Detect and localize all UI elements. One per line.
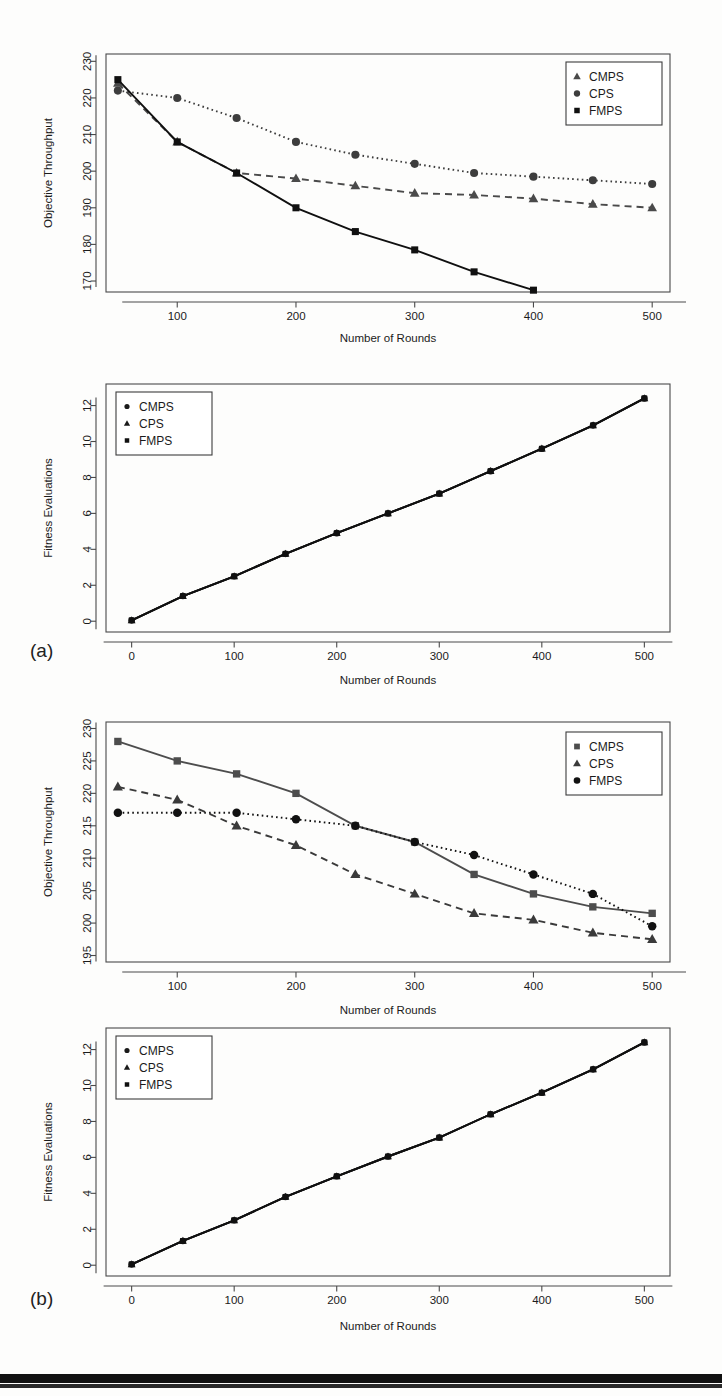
series-marker-fmps xyxy=(539,446,545,452)
series-marker-fmps xyxy=(283,551,289,557)
y-tick-label: 6 xyxy=(81,510,93,516)
figure-page: 100200300400500170180190200210220230Numb… xyxy=(0,0,722,1396)
legend-label-cps: CPS xyxy=(139,1061,164,1075)
series-marker-cps xyxy=(233,114,241,122)
y-axis-title: Fitness Evaluations xyxy=(42,458,54,558)
series-marker-cmps xyxy=(649,910,656,917)
series-marker-fmps xyxy=(283,1194,289,1200)
legend-label-cps: CPS xyxy=(139,417,164,431)
series-marker-fmps xyxy=(129,617,135,623)
x-tick-label: 200 xyxy=(286,310,305,322)
chart-b-bottom-svg: 0100200300400500024681012Number of Round… xyxy=(36,1012,686,1334)
x-tick-label: 300 xyxy=(430,1294,449,1306)
series-marker-fmps xyxy=(180,593,186,599)
y-tick-label: 200 xyxy=(81,913,93,932)
series-marker-fmps xyxy=(352,228,359,235)
series-marker-fmps xyxy=(436,1135,442,1141)
x-tick-label: 500 xyxy=(643,980,662,992)
y-tick-label: 220 xyxy=(81,88,93,107)
x-tick-label: 300 xyxy=(405,980,424,992)
series-marker-fmps xyxy=(471,268,478,275)
x-tick-label: 400 xyxy=(524,980,543,992)
series-line-cps xyxy=(118,787,652,939)
series-marker-fmps xyxy=(590,1066,596,1072)
x-tick-label: 200 xyxy=(327,1294,346,1306)
series-marker-cps xyxy=(113,782,123,791)
series-marker-cmps xyxy=(174,757,181,764)
y-tick-label: 225 xyxy=(81,751,93,770)
y-tick-label: 220 xyxy=(81,784,93,803)
chart-b-top-svg: 100200300400500195200205210215220225230N… xyxy=(36,706,686,1018)
chart-legend: CMPSCPSFMPS xyxy=(566,62,662,125)
series-marker-cps xyxy=(648,180,656,188)
y-tick-label: 210 xyxy=(81,125,93,144)
series-marker-cmps xyxy=(589,903,596,910)
y-tick-label: 205 xyxy=(81,881,93,900)
series-marker-fmps xyxy=(488,468,494,474)
y-tick-label: 0 xyxy=(81,1262,93,1268)
legend-label-fmps: FMPS xyxy=(139,1078,172,1092)
x-tick-label: 200 xyxy=(286,980,305,992)
series-marker-fmps xyxy=(589,890,597,898)
series-marker-fmps xyxy=(231,1217,237,1223)
series-marker-fmps xyxy=(180,1238,186,1244)
x-tick-label: 0 xyxy=(128,1294,134,1306)
series-marker-fmps xyxy=(351,822,359,830)
x-tick-label: 200 xyxy=(327,650,346,662)
series-marker-cmps xyxy=(114,738,121,745)
legend-label-cps: CPS xyxy=(589,87,614,101)
y-tick-label: 2 xyxy=(81,582,93,588)
series-marker-fmps xyxy=(410,838,418,846)
series-marker-fmps xyxy=(590,422,596,428)
series-marker-fmps xyxy=(114,76,121,83)
series-marker-fmps xyxy=(539,1090,545,1096)
x-tick-label: 100 xyxy=(225,1294,244,1306)
series-marker-fmps xyxy=(292,204,299,211)
series-marker-fmps xyxy=(436,491,442,497)
legend-label-fmps: FMPS xyxy=(589,774,622,788)
x-tick-label: 500 xyxy=(635,1294,654,1306)
y-tick-label: 8 xyxy=(81,474,93,480)
legend-label-fmps: FMPS xyxy=(589,104,622,118)
chart-panel-a-bottom: 0100200300400500024681012Number of Round… xyxy=(36,368,686,688)
x-tick-label: 400 xyxy=(532,1294,551,1306)
x-tick-label: 300 xyxy=(430,650,449,662)
chart-a-top-svg: 100200300400500170180190200210220230Numb… xyxy=(36,36,686,346)
y-tick-label: 170 xyxy=(81,271,93,290)
x-tick-label: 100 xyxy=(168,310,187,322)
legend-label-cmps: CMPS xyxy=(139,400,174,414)
series-marker-fmps xyxy=(292,815,300,823)
x-tick-label: 300 xyxy=(405,310,424,322)
series-marker-fmps xyxy=(530,287,537,294)
series-marker-cps xyxy=(114,87,122,95)
x-axis-title: Number of Rounds xyxy=(340,674,437,686)
panel-b-label: (b) xyxy=(30,1288,53,1310)
legend-label-cps: CPS xyxy=(589,757,614,771)
series-marker-fmps xyxy=(385,511,391,517)
series-marker-cps xyxy=(172,795,182,804)
x-tick-label: 400 xyxy=(524,310,543,322)
legend-marker-cmps xyxy=(124,1048,129,1053)
legend-marker-cmps xyxy=(574,744,580,750)
scan-edge-bar-thin xyxy=(0,1384,722,1388)
series-marker-fmps xyxy=(411,246,418,253)
series-marker-cmps xyxy=(470,871,477,878)
y-axis-title: Objective Throughput xyxy=(42,117,54,228)
legend-label-cmps: CMPS xyxy=(589,740,624,754)
series-marker-cmps xyxy=(292,790,299,797)
x-tick-label: 0 xyxy=(128,650,134,662)
y-tick-label: 12 xyxy=(81,1043,93,1056)
chart-panel-b-top: 100200300400500195200205210215220225230N… xyxy=(36,706,686,1018)
legend-marker-fmps xyxy=(125,438,129,442)
y-tick-label: 230 xyxy=(81,719,93,738)
y-tick-label: 230 xyxy=(81,52,93,71)
chart-panel-b-bottom: 0100200300400500024681012Number of Round… xyxy=(36,1012,686,1334)
x-axis-title: Number of Rounds xyxy=(340,332,437,344)
series-marker-fmps xyxy=(470,851,478,859)
chart-panel-a-top: 100200300400500170180190200210220230Numb… xyxy=(36,36,686,346)
series-marker-fmps xyxy=(231,573,237,579)
chart-legend: CMPSCPSFMPS xyxy=(116,1036,212,1099)
series-marker-cmps xyxy=(233,770,240,777)
y-tick-label: 210 xyxy=(81,849,93,868)
series-marker-cps xyxy=(470,169,478,177)
